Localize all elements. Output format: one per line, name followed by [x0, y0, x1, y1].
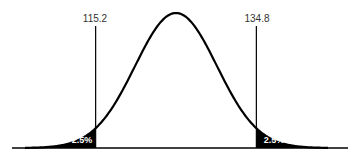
right-tail-label: 2.5%	[264, 135, 285, 145]
normal-curve	[25, 13, 328, 148]
normal-curve-chart: 115.2 134.8 2.5% 2.5%	[0, 0, 354, 156]
left-tail-label: 2.5%	[72, 135, 93, 145]
left-critical-label: 115.2	[83, 13, 108, 24]
plot-area	[25, 13, 328, 148]
right-critical-label: 134.8	[244, 13, 269, 24]
